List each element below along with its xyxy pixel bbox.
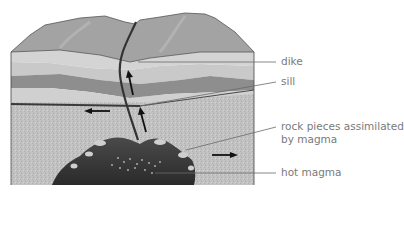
label-sill: sill: [281, 75, 295, 87]
label-dike: dike: [281, 55, 303, 67]
label-rock-pieces-line1: rock pieces assimilated: [281, 120, 404, 132]
label-hot-magma: hot magma: [281, 166, 342, 178]
label-rock-pieces-line2: by magma: [281, 133, 337, 145]
